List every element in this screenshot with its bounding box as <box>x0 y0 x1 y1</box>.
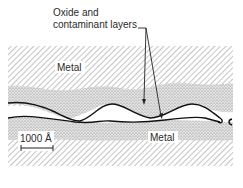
callout-line1: Oxide and <box>53 7 99 18</box>
bottom-metal-label: Metal <box>150 132 174 143</box>
top-metal-label: Metal <box>57 62 81 73</box>
callout-line2: contaminant layers <box>53 19 137 30</box>
scale-bar-label: 1000 Å <box>20 132 52 144</box>
interface-diagram: Oxide and contaminant layers Metal Metal… <box>0 0 243 188</box>
